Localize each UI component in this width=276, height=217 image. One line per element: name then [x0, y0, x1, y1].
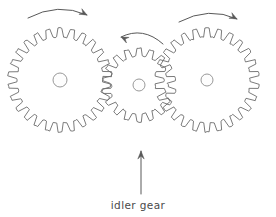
- rotation-arrow-left: [28, 9, 87, 18]
- gear-hub-icon: [53, 73, 67, 87]
- rotation-arc-icon: [121, 33, 163, 44]
- gear-diagram-canvas: idler gear: [0, 0, 276, 217]
- rotation-arc-icon: [179, 13, 237, 22]
- gear-hub-icon: [201, 74, 213, 86]
- gear-left: [8, 28, 112, 133]
- rotation-arc-icon: [28, 9, 87, 18]
- rotation-arrow-right: [179, 13, 237, 22]
- rotation-arrow-middle: [121, 33, 163, 44]
- gear-hub-icon: [133, 79, 145, 91]
- idler-pointer: [138, 151, 144, 194]
- idler-gear-label: idler gear: [111, 199, 166, 211]
- arrowhead-icon: [121, 37, 129, 43]
- gear-right: [155, 28, 259, 133]
- gear-diagram: idler gear: [0, 0, 276, 217]
- gear-middle-idler: [102, 48, 176, 123]
